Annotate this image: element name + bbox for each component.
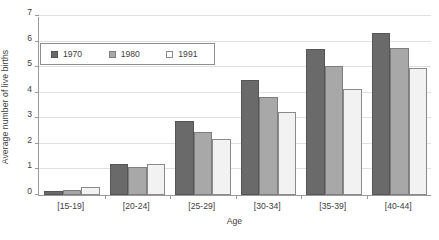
x-axis-title: Age <box>38 216 431 226</box>
y-axis-tick-label: 5 <box>27 58 32 68</box>
x-axis-tick <box>236 195 237 199</box>
bar-1970-[15-19][interactable] <box>44 191 63 195</box>
legend-entry-1980[interactable]: 1980 <box>99 49 157 59</box>
y-axis-tick-label: 1 <box>27 160 32 170</box>
bar-1980-[35-39][interactable] <box>325 66 344 195</box>
y-axis-tick <box>35 194 39 195</box>
y-axis-tick-label: 2 <box>27 135 32 145</box>
x-axis-tick <box>301 195 302 199</box>
bar-1991-[20-24][interactable] <box>147 164 166 195</box>
bar-1970-[25-29][interactable] <box>175 121 194 195</box>
bar-1991-[30-34][interactable] <box>278 112 297 195</box>
y-axis-tick-label: 7 <box>27 7 32 17</box>
clipped-caption <box>0 232 439 240</box>
legend-label: 1970 <box>63 49 82 59</box>
y-axis-tick-label: 3 <box>27 109 32 119</box>
bar-1980-[30-34][interactable] <box>259 97 278 195</box>
x-axis-tick-label: [30-34] <box>235 201 301 211</box>
x-axis-tick-label: [15-19] <box>38 201 104 211</box>
x-axis-tick-label: [35-39] <box>300 201 366 211</box>
filled-gray-square-icon <box>109 51 116 58</box>
y-axis-tick-label: 0 <box>27 186 32 196</box>
x-axis-tick-label: [40-44] <box>366 201 432 211</box>
bar-1991-[35-39][interactable] <box>343 89 362 195</box>
y-axis-tick <box>35 168 39 169</box>
legend-label: 1980 <box>121 49 140 59</box>
y-axis-tick <box>35 143 39 144</box>
bar-1980-[25-29][interactable] <box>194 132 213 195</box>
chart-legend: 197019801991 <box>40 43 215 65</box>
legend-entry-1970[interactable]: 1970 <box>41 49 99 59</box>
x-axis-tick <box>170 195 171 199</box>
bar-1991-[15-19][interactable] <box>81 187 100 195</box>
y-axis-tick <box>35 15 39 16</box>
bar-1991-[40-44][interactable] <box>409 68 428 195</box>
y-axis-tick-label: 6 <box>27 33 32 43</box>
filled-dark-square-icon <box>51 51 58 58</box>
y-axis-tick <box>35 92 39 93</box>
legend-entry-1991[interactable]: 1991 <box>156 49 214 59</box>
bar-1970-[40-44][interactable] <box>372 33 391 195</box>
y-axis-tick <box>35 41 39 42</box>
bar-1970-[35-39][interactable] <box>306 49 325 195</box>
x-axis-tick <box>105 195 106 199</box>
bar-group <box>306 17 362 195</box>
bar-1970-[20-24][interactable] <box>110 164 129 195</box>
y-axis-tick <box>35 117 39 118</box>
bar-1991-[25-29][interactable] <box>212 139 231 195</box>
bar-group <box>372 17 428 195</box>
bar-group <box>241 17 297 195</box>
y-axis-tick-label: 4 <box>27 84 32 94</box>
legend-label: 1991 <box>178 49 197 59</box>
x-axis-tick-label: [20-24] <box>104 201 170 211</box>
bar-1980-[20-24][interactable] <box>128 167 147 195</box>
outlined-white-square-icon <box>166 51 173 58</box>
y-axis-tick <box>35 66 39 67</box>
x-axis-tick <box>367 195 368 199</box>
gridline <box>39 15 431 16</box>
bar-chart-figure: Average number of live births 01234567 1… <box>0 0 439 240</box>
x-axis-tick-label: [25-29] <box>169 201 235 211</box>
bar-1970-[30-34][interactable] <box>241 80 260 195</box>
y-axis-title: Average number of live births <box>0 17 14 197</box>
bar-1980-[40-44][interactable] <box>390 48 409 195</box>
bar-1980-[15-19][interactable] <box>63 190 82 195</box>
